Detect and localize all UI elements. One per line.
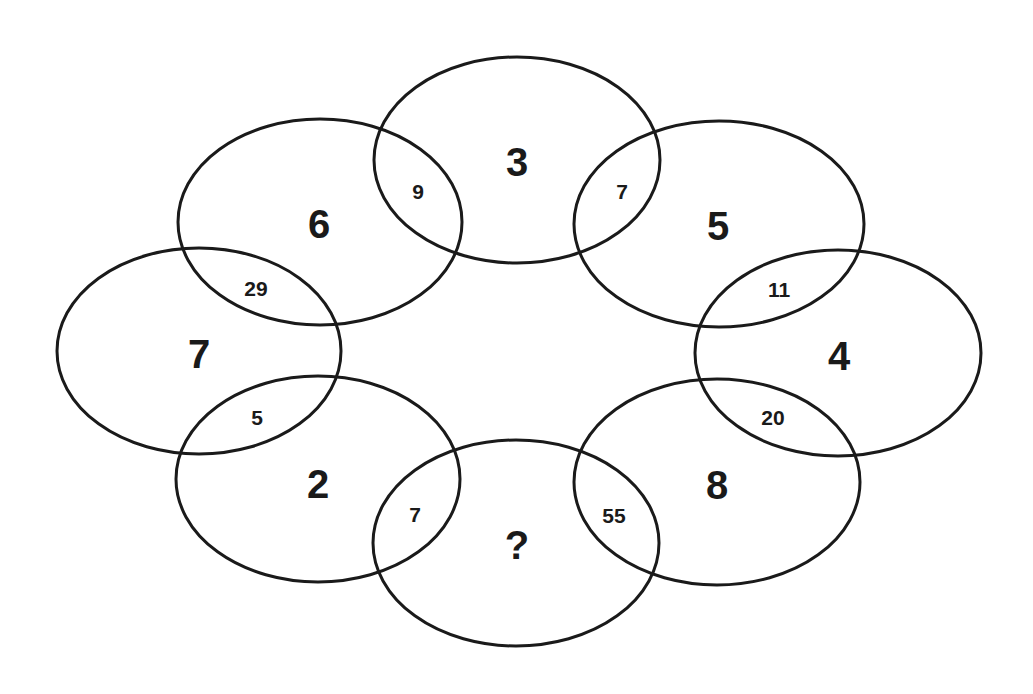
- venn-ring-diagram: 3 5 4 8 ? 2 7 6 9 7 11 20 55 7 5 29: [0, 0, 1033, 694]
- overlap-value-left-top-left: 29: [244, 277, 267, 300]
- overlap-value-bottom-right-bottom: 55: [602, 504, 626, 527]
- overlap-value-bottom-bottom-left: 7: [409, 503, 421, 526]
- overlap-value-right-bottom-right: 20: [761, 406, 784, 429]
- overlap-value-top-left-top: 9: [412, 180, 424, 203]
- overlap-value-bottom-left-left: 5: [251, 406, 263, 429]
- circle-value-top-right: 5: [707, 204, 729, 248]
- overlap-value-top-right-right: 11: [768, 278, 791, 301]
- circle-value-right: 4: [828, 334, 851, 378]
- circle-value-bottom-unknown: ?: [505, 523, 529, 567]
- circle-value-top-left: 6: [308, 202, 330, 246]
- circle-value-left: 7: [188, 332, 210, 376]
- overlap-value-top-top-right: 7: [616, 180, 628, 203]
- circle-value-bottom-left: 2: [307, 462, 329, 506]
- circle-value-top: 3: [506, 140, 528, 184]
- circle-value-bottom-right: 8: [706, 463, 728, 507]
